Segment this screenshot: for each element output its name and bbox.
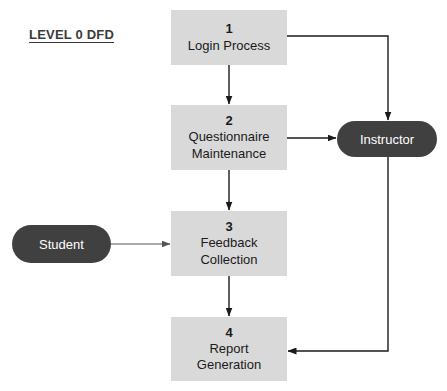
entity-label-student: Student [39, 237, 84, 252]
process-id-1: 1 [225, 21, 232, 37]
diagram-title: LEVEL 0 DFD [29, 27, 114, 42]
dfd-diagram-canvas: LEVEL 0 DFD 1 Login Process 2 [0, 0, 447, 391]
entity-node-student[interactable]: Student [12, 225, 111, 263]
process-label-2: Questionnaire Maintenance [189, 129, 270, 162]
entity-node-instructor[interactable]: Instructor [337, 121, 437, 157]
process-label-1: Login Process [188, 38, 270, 54]
process-label-3: Feedback Collection [200, 235, 257, 268]
process-id-3: 3 [225, 219, 232, 235]
process-node-2[interactable]: 2 Questionnaire Maintenance [171, 105, 287, 170]
flow-instructor-to-report [288, 157, 388, 351]
entity-label-instructor: Instructor [360, 132, 414, 147]
process-node-4[interactable]: 4 Report Generation [171, 317, 287, 381]
process-node-3[interactable]: 3 Feedback Collection [171, 211, 287, 276]
process-id-2: 2 [225, 113, 232, 129]
process-id-4: 4 [225, 325, 232, 341]
process-label-4: Report Generation [197, 341, 261, 374]
process-node-1[interactable]: 1 Login Process [171, 10, 287, 65]
flow-login-to-instructor [287, 36, 388, 120]
